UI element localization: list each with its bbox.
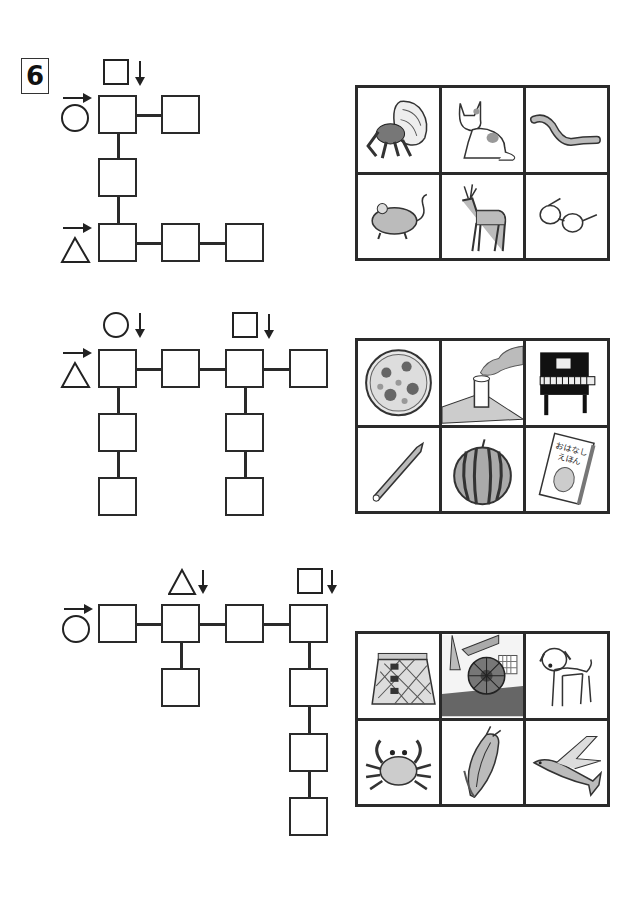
mouse-icon xyxy=(358,175,439,259)
pencil-icon xyxy=(358,428,439,512)
picture-cell-picture-book[interactable]: おはなしえほん xyxy=(526,428,607,512)
triangle-start-marker xyxy=(60,221,94,267)
answer-box[interactable] xyxy=(98,413,137,452)
answer-box[interactable] xyxy=(289,604,328,643)
hermit-crab-icon xyxy=(358,88,439,172)
triangle-down-marker xyxy=(168,568,214,598)
answer-box[interactable] xyxy=(98,477,137,516)
circle-down-marker xyxy=(103,311,153,343)
picture-cell-watermelon[interactable] xyxy=(442,428,523,512)
answer-box[interactable] xyxy=(225,604,264,643)
answer-box[interactable] xyxy=(161,223,200,262)
picture-cell-flying-fish[interactable] xyxy=(526,721,607,805)
picture-cell-chimney[interactable] xyxy=(442,341,523,425)
answer-box[interactable] xyxy=(98,349,137,388)
circle-start-marker xyxy=(61,603,95,647)
square-down-marker xyxy=(103,59,153,89)
answer-box[interactable] xyxy=(161,604,200,643)
book-icon: おはなしえほん xyxy=(526,428,607,512)
triangle-start-marker xyxy=(60,346,94,392)
glasses-icon xyxy=(526,175,607,259)
piano-icon xyxy=(526,341,607,425)
picture-cell-puppy[interactable] xyxy=(526,634,607,718)
flying-fish-icon xyxy=(526,721,607,805)
skirt-icon xyxy=(358,634,439,718)
picture-cell-deer[interactable] xyxy=(442,175,523,259)
answer-box[interactable] xyxy=(225,349,264,388)
answer-box[interactable] xyxy=(225,477,264,516)
answer-box[interactable] xyxy=(98,95,137,134)
square-down-marker xyxy=(297,568,343,598)
picture-cell-hermit-crab[interactable] xyxy=(358,88,439,172)
answer-box[interactable] xyxy=(225,223,264,262)
picture-grid-1 xyxy=(355,85,610,261)
picture-cell-piano[interactable] xyxy=(526,341,607,425)
problem-number-badge: 6 xyxy=(21,58,49,94)
picture-cell-corn[interactable] xyxy=(442,721,523,805)
picture-cell-pizza[interactable] xyxy=(358,341,439,425)
answer-box[interactable] xyxy=(98,158,137,197)
picture-cell-skirt[interactable] xyxy=(358,634,439,718)
answer-box[interactable] xyxy=(289,349,328,388)
answer-box[interactable] xyxy=(161,95,200,134)
answer-box[interactable] xyxy=(98,604,137,643)
pizza-icon xyxy=(358,341,439,425)
answer-box[interactable] xyxy=(289,797,328,836)
answer-box[interactable] xyxy=(289,668,328,707)
picture-cell-water-wheel[interactable] xyxy=(442,634,523,718)
picture-cell-pencil[interactable] xyxy=(358,428,439,512)
answer-box[interactable] xyxy=(225,413,264,452)
circle-start-marker xyxy=(60,91,94,135)
crab-icon xyxy=(358,721,439,805)
picture-grid-3 xyxy=(355,631,610,807)
chimney-icon xyxy=(442,341,523,425)
watermelon-icon xyxy=(442,428,523,512)
picture-grid-2: おはなしえほん xyxy=(355,338,610,514)
picture-cell-earthworm[interactable] xyxy=(526,88,607,172)
answer-box[interactable] xyxy=(98,223,137,262)
corn-icon xyxy=(442,721,523,805)
answer-box[interactable] xyxy=(161,349,200,388)
earthworm-icon xyxy=(526,88,607,172)
deer-icon xyxy=(442,175,523,259)
answer-box[interactable] xyxy=(289,733,328,772)
picture-cell-crab[interactable] xyxy=(358,721,439,805)
cat-icon xyxy=(442,88,523,172)
picture-cell-cat[interactable] xyxy=(442,88,523,172)
dog-icon xyxy=(526,634,607,718)
picture-cell-glasses[interactable] xyxy=(526,175,607,259)
picture-cell-mouse[interactable] xyxy=(358,175,439,259)
answer-box[interactable] xyxy=(161,668,200,707)
water-wheel-icon xyxy=(442,634,523,718)
square-down-marker xyxy=(232,312,282,342)
